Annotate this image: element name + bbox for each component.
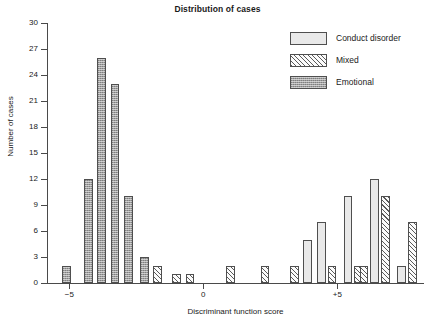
bar bbox=[140, 257, 149, 283]
bar bbox=[370, 179, 379, 283]
bar bbox=[97, 58, 106, 283]
bar bbox=[62, 266, 71, 283]
x-tick-label-2: +5 bbox=[317, 290, 357, 299]
bar bbox=[408, 222, 417, 283]
bar bbox=[328, 266, 337, 283]
y-tick-6 bbox=[41, 231, 47, 232]
bar bbox=[317, 222, 326, 283]
y-axis-title: Number of cases bbox=[6, 62, 15, 192]
legend-swatch-conduct-disorder bbox=[290, 32, 327, 45]
bar bbox=[172, 274, 181, 283]
x-tick-label-0: −5 bbox=[49, 290, 89, 299]
bar bbox=[111, 84, 120, 283]
bar bbox=[226, 266, 235, 283]
y-tick-label-0: 0 bbox=[2, 279, 38, 287]
x-axis-line bbox=[47, 283, 424, 284]
bar bbox=[360, 266, 369, 283]
bar bbox=[186, 274, 195, 283]
legend-label-conduct-disorder: Conduct disorder bbox=[336, 32, 401, 45]
y-tick-label-9: 9 bbox=[2, 201, 38, 209]
y-tick-30 bbox=[41, 23, 47, 24]
y-tick-18 bbox=[41, 127, 47, 128]
y-tick-9 bbox=[41, 205, 47, 206]
y-tick-15 bbox=[41, 153, 47, 154]
bar bbox=[153, 266, 162, 283]
legend-swatch-mixed bbox=[290, 54, 327, 67]
x-tick-1 bbox=[203, 284, 204, 289]
bar bbox=[84, 179, 93, 283]
distribution-of-cases-chart: Distribution of cases 036912151821242730… bbox=[0, 0, 435, 329]
y-tick-3 bbox=[41, 257, 47, 258]
y-tick-label-6: 6 bbox=[2, 227, 38, 235]
legend-swatch-emotional bbox=[290, 76, 327, 89]
y-tick-24 bbox=[41, 75, 47, 76]
y-tick-label-3: 3 bbox=[2, 253, 38, 261]
bar bbox=[381, 196, 390, 283]
x-tick-label-1: 0 bbox=[183, 290, 223, 299]
legend-label-mixed: Mixed bbox=[336, 54, 359, 67]
bar bbox=[344, 196, 353, 283]
legend-item-emotional: Emotional bbox=[290, 74, 435, 94]
legend-item-mixed: Mixed bbox=[290, 52, 435, 72]
chart-legend: Conduct disorder Mixed Emotional bbox=[290, 30, 435, 96]
bar bbox=[261, 266, 270, 283]
legend-item-conduct-disorder: Conduct disorder bbox=[290, 30, 435, 50]
x-tick-2 bbox=[337, 284, 338, 289]
chart-title: Distribution of cases bbox=[0, 4, 435, 14]
legend-label-emotional: Emotional bbox=[336, 76, 374, 89]
y-tick-0 bbox=[41, 283, 47, 284]
y-tick-label-30: 30 bbox=[2, 19, 38, 27]
y-tick-label-27: 27 bbox=[2, 45, 38, 53]
bar bbox=[290, 266, 299, 283]
y-tick-12 bbox=[41, 179, 47, 180]
bar bbox=[303, 240, 312, 283]
x-axis-title: Discriminant function score bbox=[48, 307, 423, 316]
x-tick-0 bbox=[69, 284, 70, 289]
bar bbox=[397, 266, 406, 283]
y-tick-27 bbox=[41, 49, 47, 50]
y-tick-21 bbox=[41, 101, 47, 102]
bar bbox=[124, 196, 133, 283]
